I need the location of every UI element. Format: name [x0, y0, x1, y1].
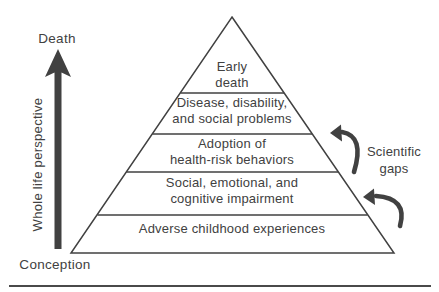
pyramid-level-adverse-childhood-experiences: Adverse childhood experiences [102, 221, 362, 237]
level-text-line: Adverse childhood experiences [102, 221, 362, 237]
level-text-line: and social problems [102, 111, 362, 127]
level-text-line: Social, emotional, and [102, 175, 362, 191]
annotation-text-line: Scientific [353, 143, 435, 160]
up-arrow-icon [45, 49, 71, 249]
whole-life-perspective-label: Whole life perspective [30, 90, 47, 240]
pyramid-level-disease-disability: Disease, disability, and social problems [102, 95, 362, 126]
pyramid-level-health-risk-behaviors: Adoption of health-risk behaviors [102, 136, 362, 167]
pyramid-level-cognitive-impairment: Social, emotional, and cognitive impairm… [102, 175, 362, 206]
pyramid-level-early-death: Early death [102, 59, 362, 90]
annotation-text-line: gaps [353, 160, 435, 177]
ace-pyramid-figure: Death Whole life perspective Conception … [0, 0, 439, 292]
curved-left-arrow-bottom-icon [363, 189, 402, 227]
conception-label: Conception [5, 257, 105, 272]
level-text-line: Disease, disability, [102, 95, 362, 111]
level-text-line: health-risk behaviors [102, 152, 362, 168]
level-text-line: cognitive impairment [102, 191, 362, 207]
death-label: Death [17, 31, 97, 46]
level-text-line: Early [102, 59, 362, 75]
level-text-line: death [102, 75, 362, 91]
level-text-line: Adoption of [102, 136, 362, 152]
scientific-gaps-label: Scientific gaps [353, 143, 435, 177]
